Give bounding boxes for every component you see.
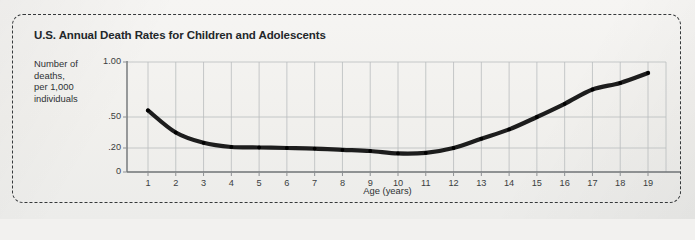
x-axis-title: Age (years) bbox=[0, 185, 695, 196]
y-tick-label-p20: .20 bbox=[87, 142, 121, 152]
gridlines bbox=[127, 62, 666, 172]
y-tick-label-0: 0 bbox=[87, 166, 121, 176]
y-tick-label-1p00: 1.00 bbox=[87, 56, 121, 66]
y-tick-label-p50: .50 bbox=[87, 111, 121, 121]
x-axis-title-text: Age (years) bbox=[363, 185, 411, 196]
